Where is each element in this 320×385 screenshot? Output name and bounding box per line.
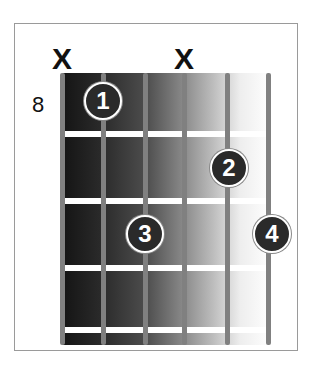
finger-2-marker: 2 <box>210 149 248 187</box>
fret-line-4 <box>62 327 272 333</box>
string-3 <box>143 73 148 345</box>
finger-4-marker: 4 <box>253 215 291 253</box>
fret-line-3 <box>62 265 272 271</box>
string-6 <box>266 73 271 345</box>
start-fret-number: 8 <box>32 92 44 118</box>
mute-mark-string-4: X <box>174 44 194 74</box>
mute-mark-string-1: X <box>52 44 72 74</box>
string-1 <box>60 73 65 345</box>
string-4 <box>182 73 187 345</box>
finger-3-marker: 3 <box>126 215 164 253</box>
fret-line-1 <box>62 131 272 137</box>
fret-line-2 <box>62 198 272 204</box>
string-5 <box>225 73 230 345</box>
finger-1-marker: 1 <box>84 82 122 120</box>
